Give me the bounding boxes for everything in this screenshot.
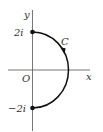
label-2i: 2i [13, 27, 24, 38]
origin-label: O [22, 73, 30, 84]
curve-label-c: C [61, 36, 69, 47]
point-2i [30, 30, 35, 35]
complex-plane-diagram: y x O C 2i −2i [0, 0, 103, 132]
y-axis-label: y [23, 9, 30, 20]
x-axis-label: x [86, 71, 92, 82]
label-minus-2i: −2i [8, 103, 26, 114]
point-minus-2i [30, 106, 35, 111]
